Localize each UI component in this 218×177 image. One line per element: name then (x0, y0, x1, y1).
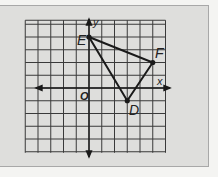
y-axis-label: y (92, 16, 100, 28)
triangle-DEF (89, 37, 153, 101)
vertex-point-E (86, 34, 91, 39)
origin-label: O (80, 90, 89, 102)
coordinate-plane: y x O E F D (0, 0, 218, 177)
vertex-label-D: D (129, 102, 139, 118)
vertex-label-F: F (155, 45, 165, 61)
y-axis-down-arrow-icon (87, 151, 92, 157)
axes (36, 19, 170, 157)
x-axis-left-arrow-icon (36, 86, 42, 91)
x-axis-right-arrow-icon (164, 86, 170, 91)
x-axis-label: x (156, 75, 163, 87)
vertices (86, 34, 155, 103)
vertex-label-E: E (77, 32, 87, 48)
